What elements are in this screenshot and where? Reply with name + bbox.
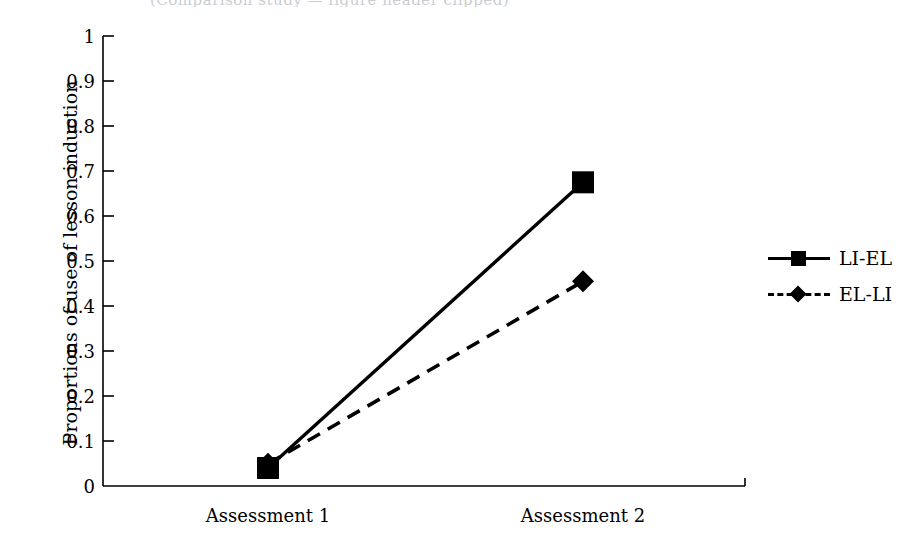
x-tick-label-assessment-1: Assessment 1 [188,505,348,526]
square-marker-icon [791,251,806,266]
figure-chart: (Comparison study — figure header clippe… [0,0,917,538]
x-tick-label-assessment-2: Assessment 2 [503,505,663,526]
data-point-li-el-assessment-1 [257,457,279,479]
legend-item-li-el: LI-EL [768,240,917,276]
legend-swatch-el-li [768,287,830,301]
legend-label-li-el: LI-EL [830,247,892,269]
data-point-li-el-assessment-2 [572,171,594,193]
legend-swatch-li-el [768,251,830,265]
data-point-el-li-assessment-2 [572,270,594,292]
diamond-marker-icon [790,286,807,303]
series-line-li-el [268,182,583,468]
y-tick-marks [103,36,114,441]
legend-label-el-li: EL-LI [830,283,892,305]
series-line-el-li [268,281,583,464]
chart-legend: LI-EL EL-LI [768,240,917,312]
legend-item-el-li: EL-LI [768,276,917,312]
